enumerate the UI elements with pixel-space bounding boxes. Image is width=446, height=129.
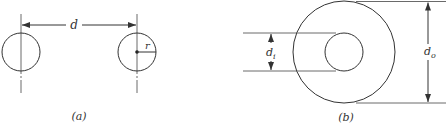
- caption-a: (a): [71, 110, 86, 123]
- inner-diameter-label: di: [266, 46, 276, 61]
- caption-b: (b): [338, 111, 354, 124]
- inner-circle: [325, 33, 363, 71]
- figure-a: r d (a): [2, 14, 156, 123]
- distance-label: d: [70, 18, 78, 32]
- outer-circle: [293, 1, 395, 103]
- figure-b: di do (b): [243, 1, 446, 124]
- radius-label: r: [145, 40, 151, 51]
- diagram-canvas: r d (a) di do (b): [0, 0, 446, 129]
- outer-diameter-label: do: [424, 45, 436, 60]
